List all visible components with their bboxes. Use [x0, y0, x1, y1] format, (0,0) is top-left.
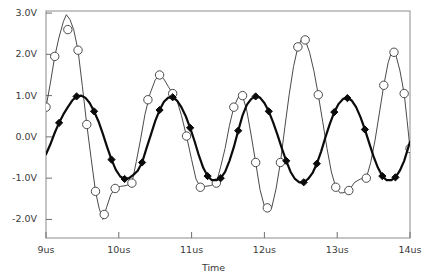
- waveform-plot: [0, 0, 427, 278]
- y-tick-label: 1.0V: [0, 90, 37, 101]
- x-tick-label: 10us: [89, 244, 149, 255]
- y-tick-label: 3.0V: [0, 7, 37, 18]
- y-tick-label: 2.0V: [0, 48, 37, 59]
- y-tick-label: -1.0V: [0, 172, 37, 183]
- x-tick-label: 14us: [380, 244, 427, 255]
- y-tick-label: -2.0V: [0, 213, 37, 224]
- x-axis-title: Time: [0, 262, 427, 273]
- x-tick-label: 11us: [162, 244, 222, 255]
- chart-root: 3.0V2.0V1.0V0.0V-1.0V-2.0V9us10us11us12u…: [0, 0, 427, 278]
- series-layer: [42, 15, 414, 220]
- x-tick-label: 12us: [234, 244, 294, 255]
- x-tick-label: 9us: [16, 244, 76, 255]
- y-tick-label: 0.0V: [0, 131, 37, 142]
- x-tick-label: 13us: [307, 244, 367, 255]
- series-thick-trace: [46, 93, 410, 186]
